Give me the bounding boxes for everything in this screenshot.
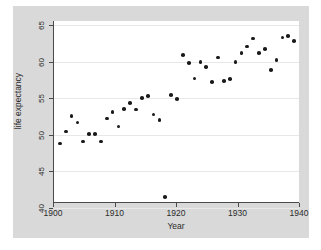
data-point: [81, 140, 85, 144]
y-axis-title: life expectancy: [13, 36, 23, 166]
data-point: [87, 132, 91, 136]
data-point: [134, 108, 138, 112]
data-point: [175, 97, 179, 101]
x-tick-label: 1920: [159, 208, 193, 218]
data-point: [93, 132, 97, 136]
x-tick-mark: [238, 203, 239, 207]
x-tick-mark: [299, 203, 300, 207]
data-point: [251, 37, 255, 41]
data-point: [105, 117, 109, 121]
x-tick-label: 1910: [98, 208, 132, 218]
data-point: [199, 60, 203, 64]
data-point: [117, 125, 121, 129]
data-point: [210, 80, 214, 84]
data-point: [269, 68, 273, 72]
data-point: [64, 130, 68, 134]
data-point: [181, 53, 185, 57]
scatter-chart-figure: 65 60 55 50 45 40 life expectancy 1900 1…: [0, 0, 321, 250]
data-point: [169, 93, 173, 97]
data-point: [286, 34, 290, 38]
data-point: [281, 36, 285, 40]
data-point: [58, 142, 62, 146]
x-tick-mark: [115, 203, 116, 207]
x-tick-label: 1930: [221, 208, 255, 218]
data-point: [222, 79, 226, 83]
data-point: [240, 51, 244, 55]
data-point: [152, 113, 156, 117]
data-point: [275, 58, 279, 62]
data-point: [99, 140, 103, 144]
data-point: [76, 121, 80, 125]
data-point: [187, 61, 191, 65]
data-point: [193, 77, 197, 81]
data-point: [163, 195, 167, 199]
plot-region: [53, 21, 299, 203]
x-tick-label: 1940: [282, 208, 316, 218]
y-tick-label: 65: [37, 19, 46, 33]
data-point: [158, 118, 162, 122]
x-tick-mark: [53, 203, 54, 207]
data-point: [263, 47, 267, 51]
y-tick-label: 60: [37, 55, 46, 69]
data-point: [204, 65, 208, 69]
y-tick-label: 55: [37, 92, 46, 106]
data-point: [292, 39, 296, 43]
data-point: [146, 94, 150, 98]
data-point: [216, 56, 220, 60]
data-point: [257, 51, 261, 55]
data-point: [140, 96, 144, 100]
data-points-layer: [54, 21, 299, 202]
x-tick-mark: [176, 203, 177, 207]
y-tick-label: 45: [37, 165, 46, 179]
data-point: [128, 101, 132, 105]
data-point: [245, 45, 249, 49]
data-point: [122, 107, 126, 111]
data-point: [70, 114, 74, 118]
y-tick-label: 50: [37, 128, 46, 142]
x-axis-title: Year: [53, 221, 299, 231]
data-point: [234, 60, 238, 64]
data-point: [111, 110, 115, 114]
x-tick-label: 1900: [36, 208, 70, 218]
data-point: [228, 77, 232, 81]
